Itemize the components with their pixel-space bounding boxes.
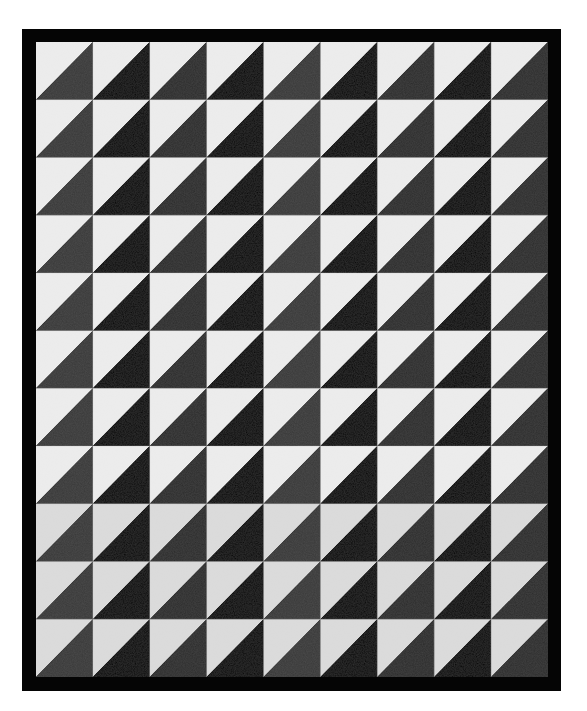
quilt-block (434, 331, 491, 389)
quilt-photo (0, 0, 587, 711)
quilt-block (36, 388, 93, 446)
quilt-block (377, 331, 434, 389)
quilt-block (207, 504, 264, 562)
quilt-block (36, 446, 93, 504)
quilt-block (434, 388, 491, 446)
quilt-block (93, 619, 150, 677)
quilt-block (377, 100, 434, 158)
quilt-block (93, 273, 150, 331)
quilt-block (150, 42, 207, 100)
quilt-block (320, 446, 377, 504)
quilt-block (377, 388, 434, 446)
quilt-block (264, 273, 321, 331)
quilt-block (377, 42, 434, 100)
quilt-block (36, 157, 93, 215)
quilt-block (36, 619, 93, 677)
quilt-block (264, 388, 321, 446)
quilt-block (491, 273, 548, 331)
quilt-block (150, 619, 207, 677)
quilt-block (93, 331, 150, 389)
quilt-block (264, 331, 321, 389)
quilt-block (320, 331, 377, 389)
quilt-block (377, 273, 434, 331)
quilt-block (207, 446, 264, 504)
quilt-block (150, 100, 207, 158)
quilt-block (434, 619, 491, 677)
quilt-block (150, 273, 207, 331)
quilt-block (93, 157, 150, 215)
quilt-block (264, 100, 321, 158)
quilt-block (36, 504, 93, 562)
quilt-block (320, 504, 377, 562)
quilt-block (207, 215, 264, 273)
quilt-block (150, 331, 207, 389)
quilt-block (320, 388, 377, 446)
quilt-block (150, 157, 207, 215)
quilt-block (491, 388, 548, 446)
quilt-block (264, 562, 321, 620)
quilt-block (36, 562, 93, 620)
quilt-block (491, 504, 548, 562)
quilt-block (207, 619, 264, 677)
quilt-block (93, 42, 150, 100)
quilt-block (150, 562, 207, 620)
quilt-block (264, 157, 321, 215)
quilt-block (377, 504, 434, 562)
quilt-block (377, 619, 434, 677)
quilt-block (491, 100, 548, 158)
quilt-block (150, 504, 207, 562)
quilt-block (150, 215, 207, 273)
quilt-block (434, 562, 491, 620)
quilt-block (150, 446, 207, 504)
quilt-block (320, 215, 377, 273)
quilt-block (320, 619, 377, 677)
quilt-block (93, 215, 150, 273)
quilt-block (207, 157, 264, 215)
quilt-block (320, 100, 377, 158)
quilt-block (377, 215, 434, 273)
quilt-block (264, 42, 321, 100)
quilt-block (36, 42, 93, 100)
quilt-block (264, 619, 321, 677)
quilt-block (434, 157, 491, 215)
quilt-block (320, 562, 377, 620)
quilt-block (320, 157, 377, 215)
quilt-block (150, 388, 207, 446)
quilt-block (434, 273, 491, 331)
quilt-block (491, 157, 548, 215)
quilt-block (491, 215, 548, 273)
quilt-block (36, 100, 93, 158)
quilt-block (264, 215, 321, 273)
quilt-block (491, 619, 548, 677)
quilt-block (491, 331, 548, 389)
quilt-block (377, 562, 434, 620)
quilt-block (207, 562, 264, 620)
quilt-block (377, 446, 434, 504)
quilt-block (491, 562, 548, 620)
quilt-block (93, 562, 150, 620)
quilt-block (377, 157, 434, 215)
quilt-block (207, 388, 264, 446)
quilt-block (434, 504, 491, 562)
quilt-block (207, 42, 264, 100)
quilt-block (36, 331, 93, 389)
quilt-block (434, 446, 491, 504)
quilt-block (434, 100, 491, 158)
quilt-block (93, 388, 150, 446)
quilt-block (264, 446, 321, 504)
quilt-block (207, 100, 264, 158)
quilt-block (93, 504, 150, 562)
quilt-block (207, 331, 264, 389)
quilt-block (93, 100, 150, 158)
quilt-block (491, 446, 548, 504)
quilt-block (93, 446, 150, 504)
quilt-block (36, 273, 93, 331)
quilt-block (320, 273, 377, 331)
quilt-block (434, 215, 491, 273)
quilt-blocks (36, 42, 548, 677)
quilt-block (264, 504, 321, 562)
quilt-block (434, 42, 491, 100)
quilt-block (320, 42, 377, 100)
quilt-block (207, 273, 264, 331)
quilt-block (491, 42, 548, 100)
